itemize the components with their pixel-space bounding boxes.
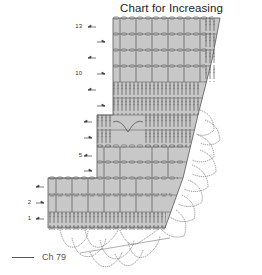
foundation-leader-line [12,257,34,258]
stitch-chart [0,0,262,275]
foundation-chain-label: Ch 79 [42,252,66,262]
